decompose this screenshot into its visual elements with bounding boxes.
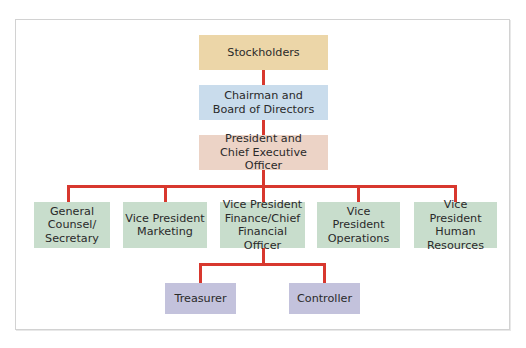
node-label: President and Chief Executive Officer	[201, 132, 326, 173]
connector-officer-bus	[67, 185, 457, 188]
node-label: Vice President Human Resources	[416, 198, 495, 252]
node-vp-finance-cfo: Vice President Finance/Chief Financial O…	[220, 202, 305, 248]
node-label: Vice President Finance/Chief Financial O…	[222, 198, 303, 252]
node-vp-operations: Vice President Operations	[317, 202, 400, 248]
node-president-ceo: President and Chief Executive Officer	[199, 135, 328, 170]
connector-to-treasurer	[199, 263, 202, 283]
connector-finance-bus	[199, 263, 326, 266]
connector-to-vp-operations	[357, 185, 360, 202]
node-controller: Controller	[289, 283, 360, 314]
node-label: Stockholders	[227, 46, 299, 60]
connector-to-general-counsel	[67, 185, 70, 202]
node-label: Controller	[297, 292, 352, 306]
node-vp-marketing: Vice President Marketing	[123, 202, 207, 248]
node-general-counsel: General Counsel/ Secretary	[34, 202, 110, 248]
node-label: Vice President Marketing	[125, 212, 204, 239]
node-board-of-directors: Chairman and Board of Directors	[199, 85, 328, 120]
connector-stockholders-board	[262, 70, 265, 85]
node-stockholders: Stockholders	[199, 35, 328, 70]
node-label: Vice President Operations	[319, 205, 398, 246]
node-label: Chairman and Board of Directors	[213, 89, 315, 116]
connector-to-vp-marketing	[164, 185, 167, 202]
node-vp-human-resources: Vice President Human Resources	[414, 202, 497, 248]
connector-to-controller	[323, 263, 326, 283]
node-label: General Counsel/ Secretary	[45, 205, 99, 246]
node-label: Treasurer	[174, 292, 226, 306]
node-treasurer: Treasurer	[165, 283, 236, 314]
